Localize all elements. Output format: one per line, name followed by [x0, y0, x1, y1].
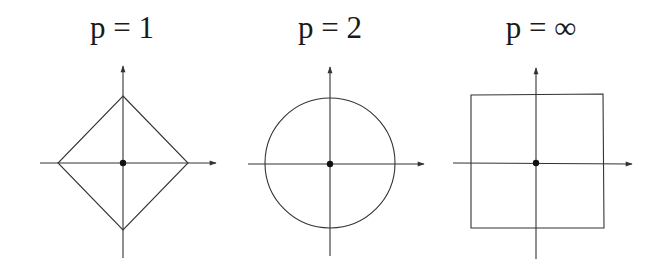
x-axis: [453, 163, 632, 164]
panel-p2: [248, 67, 424, 256]
diagram-canvas: [0, 0, 660, 268]
panel-pinf: [453, 68, 632, 259]
origin-dot: [120, 160, 126, 166]
lp-unit-balls-figure: p = 1 p = 2 p = ∞: [0, 0, 660, 268]
panel-p1: [40, 66, 216, 258]
origin-dot: [327, 161, 333, 167]
origin-dot: [533, 160, 539, 166]
